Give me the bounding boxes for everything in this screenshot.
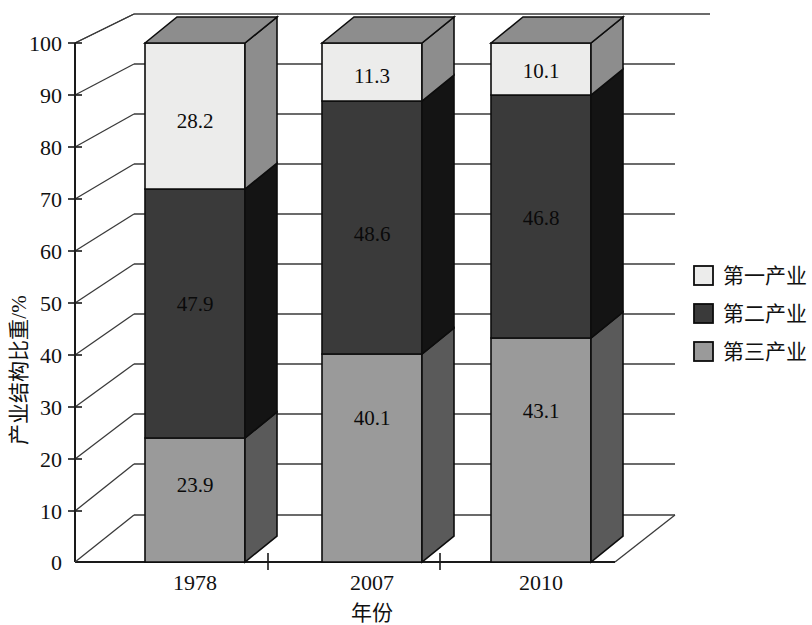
legend-item-primary-industry[interactable]: 第一产业: [694, 264, 807, 288]
y-tick-label-90: 90: [40, 83, 62, 108]
bar-2007-value-tertiary: 40.1: [354, 406, 391, 430]
legend-item-secondary-industry[interactable]: 第二产业: [694, 302, 807, 326]
y-tick-label-80: 80: [40, 135, 62, 160]
y-tick-label-20: 20: [40, 447, 62, 472]
y-tick-label-70: 70: [40, 187, 62, 212]
y-tick-label-40: 40: [40, 343, 62, 368]
y-axis-title: 产业结构比重/%: [7, 295, 31, 444]
legend-swatch-tertiary-industry: [694, 342, 713, 361]
bar-2010-value-primary: 10.1: [523, 59, 560, 83]
bar-1978-segment-primary-side: [245, 17, 277, 189]
chart-canvas: 100 90 80 70 60 50 40 30 20 10 0 产业结构比重/…: [0, 0, 812, 625]
depth-line-40: [75, 314, 134, 355]
depth-line-50: [75, 264, 134, 303]
bar-1978-value-tertiary: 23.9: [177, 473, 214, 497]
y-tick-label-30: 30: [40, 395, 62, 420]
bar-2010-value-secondary: 46.8: [523, 206, 560, 230]
depth-line-60: [75, 214, 134, 251]
x-axis-tick-labels: 1978 2007 2010: [173, 570, 563, 595]
bar-2010-segment-secondary-side: [591, 69, 623, 338]
x-axis-title: 年份: [351, 601, 393, 625]
depth-line-100: [75, 14, 134, 43]
depth-line-70: [75, 164, 134, 199]
legend-item-tertiary-industry[interactable]: 第三产业: [694, 340, 807, 364]
x-tick-label-2007: 2007: [350, 570, 394, 595]
bar-2007-value-primary: 11.3: [354, 64, 390, 88]
bar-group-1978[interactable]: 28.2 47.9 23.9: [145, 17, 277, 562]
depth-line-20: [75, 414, 134, 459]
x-tick-label-1978: 1978: [173, 570, 217, 595]
y-tick-label-10: 10: [40, 499, 62, 524]
stacked-column-chart: 100 90 80 70 60 50 40 30 20 10 0 产业结构比重/…: [0, 0, 812, 625]
bar-2007-segment-tertiary-front[interactable]: [322, 354, 422, 562]
y-tick-label-50: 50: [40, 291, 62, 316]
depth-line-80: [75, 114, 134, 147]
legend-label-primary-industry: 第一产业: [723, 264, 807, 288]
bar-2007-segment-secondary-side: [422, 75, 454, 354]
depth-line-90: [75, 64, 134, 95]
x-tick-label-2010: 2010: [519, 570, 563, 595]
bar-2007-value-secondary: 48.6: [354, 222, 391, 246]
y-tick-label-60: 60: [40, 239, 62, 264]
legend-swatch-primary-industry: [694, 266, 713, 285]
depth-line-10: [75, 464, 134, 511]
depth-line-30: [75, 364, 134, 407]
bar-group-2010[interactable]: 10.1 46.8 43.1: [491, 17, 623, 562]
bar-1978-segment-secondary-side: [245, 163, 277, 438]
bar-1978-segment-tertiary-front[interactable]: [145, 438, 245, 562]
floor-right-diagonal: [615, 515, 675, 562]
bar-2010-segment-tertiary-front[interactable]: [491, 338, 591, 562]
bar-2010-segment-tertiary-side: [591, 312, 623, 562]
bar-group-2007[interactable]: 11.3 48.6 40.1: [322, 17, 454, 562]
bar-1978-value-primary: 28.2: [177, 109, 214, 133]
bar-2007-segment-tertiary-side: [422, 328, 454, 562]
legend-label-tertiary-industry: 第三产业: [723, 340, 807, 364]
y-axis-tick-labels: 100 90 80 70 60 50 40 30 20 10 0: [29, 31, 62, 575]
y-tick-label-100: 100: [29, 31, 62, 56]
legend-swatch-secondary-industry: [694, 304, 713, 323]
floor-left-diagonal: [75, 515, 134, 562]
bar-2010-value-tertiary: 43.1: [523, 399, 560, 423]
bar-1978-value-secondary: 47.9: [177, 292, 214, 316]
y-tick-label-0: 0: [51, 550, 62, 575]
legend-label-secondary-industry: 第二产业: [723, 302, 807, 326]
legend: 第一产业 第二产业 第三产业: [694, 264, 807, 364]
